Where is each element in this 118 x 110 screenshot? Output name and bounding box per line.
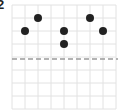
dot [99,27,107,35]
dot [60,40,68,48]
grid-lines [12,5,116,109]
dot [60,27,68,35]
dot [34,14,42,22]
dot [21,27,29,35]
dot-grid-diagram [0,0,118,110]
dot [86,14,94,22]
